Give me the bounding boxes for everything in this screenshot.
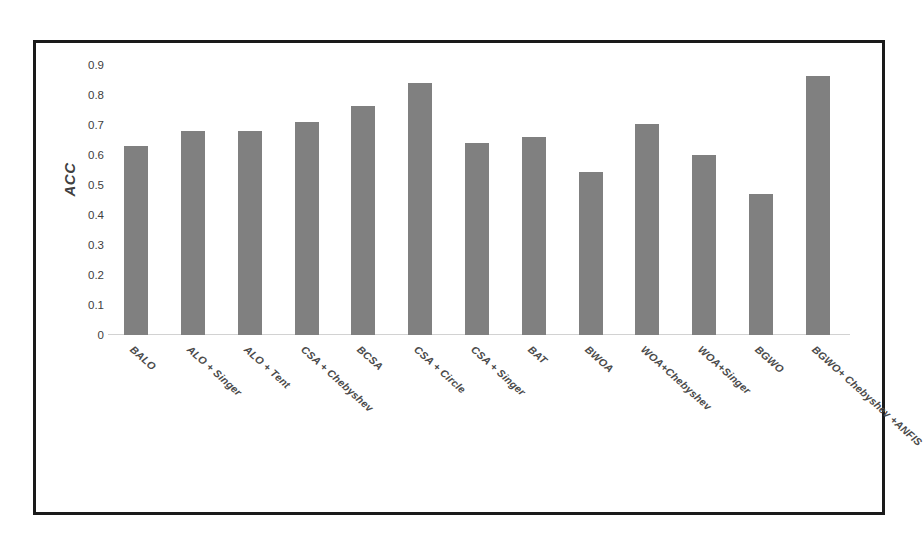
bar-slot <box>619 65 676 335</box>
bar-slot <box>278 65 335 335</box>
x-label-slot: ALO + Tent <box>222 339 279 509</box>
bar-slot <box>165 65 222 335</box>
x-label-slot: BALO <box>108 339 165 509</box>
bar[interactable] <box>806 76 830 336</box>
y-axis-tick-label: 0.4 <box>64 209 104 221</box>
x-axis-tick-label: BCSA <box>355 343 386 372</box>
y-axis-tick-label: 0 <box>64 329 104 341</box>
x-axis-tick-label: BWOA <box>582 343 615 375</box>
bar[interactable] <box>635 124 659 336</box>
bar-slot <box>789 65 846 335</box>
x-axis-tick-label: BGWO <box>753 343 787 375</box>
bar-slot <box>562 65 619 335</box>
y-axis-tick-label: 0.2 <box>64 269 104 281</box>
bar[interactable] <box>181 131 205 335</box>
chart-figure: ACC 0.90.80.70.60.50.40.30.20.10 BALOALO… <box>33 40 885 515</box>
x-label-slot: WOA+Singer <box>676 339 733 509</box>
x-label-slot: BCSA <box>335 339 392 509</box>
x-label-slot: WOA+Chebyshev <box>619 339 676 509</box>
y-axis-tick-label: 0.8 <box>64 89 104 101</box>
x-label-slot: CSA + Singer <box>449 339 506 509</box>
x-axis-tick-label: BGWO+ Chebyshev +ANFIS <box>810 343 924 448</box>
x-label-slot: BAT <box>505 339 562 509</box>
bar-slot <box>335 65 392 335</box>
x-label-slot: BWOA <box>562 339 619 509</box>
x-axis-tick-label: BALO <box>128 343 159 372</box>
x-label-slot: ALO + Singer <box>165 339 222 509</box>
bar[interactable] <box>579 172 603 336</box>
bar[interactable] <box>465 143 489 335</box>
bar[interactable] <box>351 106 375 336</box>
bar[interactable] <box>408 83 432 335</box>
x-axis-tick-label: BAT <box>526 343 550 366</box>
y-axis-tick-label: 0.6 <box>64 149 104 161</box>
bar[interactable] <box>124 146 148 335</box>
x-axis-labels: BALOALO + SingerALO + TentCSA + Chebyshe… <box>108 339 846 509</box>
bar-series <box>108 65 846 335</box>
bar-slot <box>732 65 789 335</box>
y-axis-tick-label: 0.3 <box>64 239 104 251</box>
x-label-slot: CSA + Chebyshev <box>278 339 335 509</box>
y-axis-ticks: 0.90.80.70.60.50.40.30.20.10 <box>64 65 104 335</box>
bar[interactable] <box>295 122 319 335</box>
y-axis-tick-label: 0.5 <box>64 179 104 191</box>
x-label-slot: BGWO <box>732 339 789 509</box>
x-label-slot: BGWO+ Chebyshev +ANFIS <box>789 339 846 509</box>
bar-slot <box>449 65 506 335</box>
bar-slot <box>676 65 733 335</box>
bar-slot <box>222 65 279 335</box>
bar-slot <box>108 65 165 335</box>
plot-area: 0.90.80.70.60.50.40.30.20.10 <box>108 65 846 335</box>
bar[interactable] <box>749 194 773 335</box>
x-label-slot: CSA + Circle <box>392 339 449 509</box>
y-axis-tick-label: 0.7 <box>64 119 104 131</box>
bar-slot <box>392 65 449 335</box>
bar[interactable] <box>692 155 716 335</box>
bar[interactable] <box>238 131 262 335</box>
y-axis-tick-label: 0.1 <box>64 299 104 311</box>
y-axis-tick-label: 0.9 <box>64 59 104 71</box>
bar[interactable] <box>522 137 546 335</box>
bar-slot <box>505 65 562 335</box>
